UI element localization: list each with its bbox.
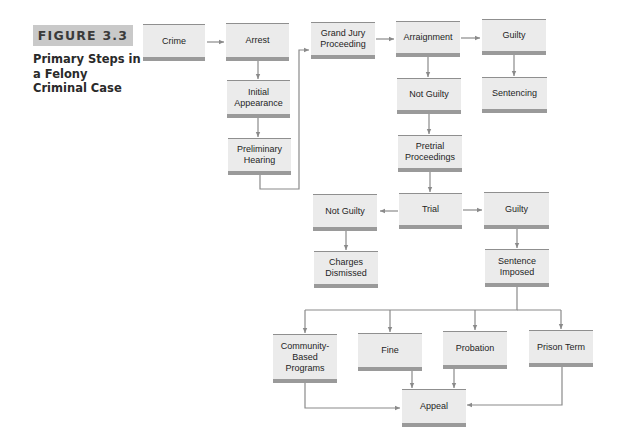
node-crime: Crime [143,24,205,61]
node-probation: Probation [443,331,507,369]
node-preliminary-hearing: Preliminary Hearing [228,138,291,175]
node-arrest: Arrest [226,23,289,61]
node-not-guilty-plea: Not Guilty [397,78,461,114]
node-sentencing: Sentencing [482,77,547,113]
node-guilty-plea: Guilty [482,19,546,55]
node-prison-term: Prison Term [529,330,593,367]
node-arraignment: Arraignment [396,21,460,57]
node-pretrial-proceedings: Pretrial Proceedings [398,135,462,172]
node-appeal: Appeal [402,389,466,427]
node-sentence-imposed: Sentence Imposed [485,249,549,287]
node-community-based-programs: Community-Based Programs [273,334,337,383]
node-fine: Fine [358,333,422,371]
node-trial: Trial [399,193,462,229]
node-grand-jury-proceeding: Grand Jury Proceeding [311,22,375,59]
node-initial-appearance: Initial Appearance [227,80,290,118]
node-charges-dismissed: Charges Dismissed [314,251,378,288]
node-not-guilty-verdict: Not Guilty [313,194,377,231]
node-guilty-verdict: Guilty [484,192,549,229]
